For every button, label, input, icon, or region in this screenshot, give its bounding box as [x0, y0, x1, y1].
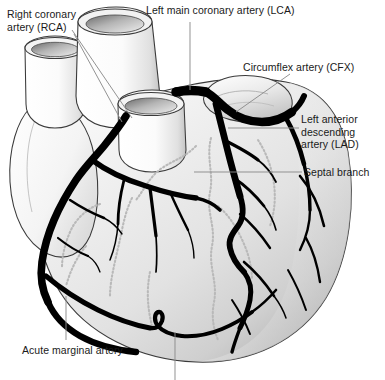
left-main-coronary-artery [176, 91, 206, 93]
label-right-coronary-artery: Right coronary artery (RCA) [7, 8, 76, 33]
coronary-artery-illustration [0, 0, 385, 380]
svc-lumen [32, 42, 79, 56]
label-septal-branch: Septal branch [304, 166, 369, 179]
label-left-anterior-descending-artery: Left anterior descending artery (LAD) [301, 113, 359, 151]
label-left-main-coronary-artery: Left main coronary artery (LCA) [146, 4, 295, 17]
label-circumflex-artery: Circumflex artery (CFX) [243, 61, 354, 74]
label-acute-marginal-artery: Acute marginal artery [22, 344, 123, 357]
aorta-lumen [86, 15, 144, 33]
pulmonary-lumen [125, 98, 177, 114]
